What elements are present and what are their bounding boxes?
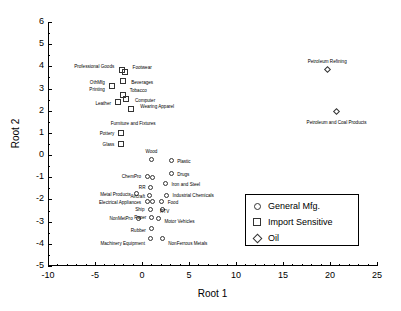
data-point-label: Iron and Steel (172, 183, 201, 188)
x-tick (245, 264, 246, 266)
data-point (109, 83, 115, 89)
data-point (149, 157, 154, 162)
x-tick-label: 5 (169, 270, 209, 280)
y-tick-label: 3 (20, 83, 44, 93)
y-tick (48, 211, 50, 212)
x-tick (227, 264, 228, 266)
y-tick-label: 4 (20, 60, 44, 70)
data-point (160, 236, 165, 241)
x-tick (311, 264, 312, 266)
x-tick (358, 264, 359, 266)
y-tick (48, 22, 52, 23)
data-point (149, 215, 154, 220)
x-axis-label: Root 1 (48, 288, 377, 299)
y-tick (48, 144, 50, 145)
legend-label: General Mfg. (268, 201, 320, 211)
x-tick (114, 264, 115, 266)
data-point-label: Wearing Apparel (140, 105, 174, 110)
data-point (148, 207, 153, 212)
x-tick-label: 20 (310, 270, 350, 280)
x-tick-label: -10 (28, 270, 68, 280)
x-tick-label: -5 (75, 270, 115, 280)
legend-item[interactable]: General Mfg. (246, 198, 358, 214)
data-point (128, 106, 134, 112)
y-tick-label: -3 (20, 216, 44, 226)
data-point-label: Electrical Appliances (99, 201, 141, 206)
data-point-label: Food (168, 201, 178, 206)
data-point-label: Footwear (133, 66, 152, 71)
y-tick-label: 0 (20, 149, 44, 159)
data-point-label: RTV (160, 210, 169, 215)
x-tick (264, 264, 265, 266)
x-tick (330, 262, 331, 266)
x-tick (368, 264, 369, 266)
legend-item[interactable]: Oil (246, 230, 358, 246)
data-point (148, 185, 153, 190)
x-tick (67, 264, 68, 266)
data-point (118, 141, 124, 147)
data-point-label: Plastic (177, 160, 191, 165)
x-tick (321, 264, 322, 266)
y-tick-label: 6 (20, 16, 44, 26)
legend-item[interactable]: Import Sensitive (246, 214, 358, 230)
y-tick-label: -4 (20, 238, 44, 248)
x-tick (76, 264, 77, 266)
data-point-label: Printing (89, 88, 105, 93)
x-tick (151, 264, 152, 266)
y-tick-label: 5 (20, 38, 44, 48)
y-tick (48, 111, 52, 112)
data-point-label: RR (139, 186, 146, 191)
y-tick-label: -2 (20, 193, 44, 203)
legend-label: Oil (268, 233, 279, 243)
data-point-label: Motor Vehicles (164, 220, 194, 225)
data-point-label: Petroleum Refining (308, 60, 347, 65)
data-point-label: Tobacco (130, 89, 147, 94)
x-tick (198, 264, 199, 266)
data-point-label: Furniture and Fixtures (111, 122, 156, 127)
x-tick (95, 262, 96, 266)
y-tick (48, 33, 50, 34)
circle-marker (246, 203, 268, 210)
data-point-label: NonFerrous Metals (168, 242, 207, 247)
data-point (120, 78, 126, 84)
data-point-label: Rubber (131, 229, 146, 234)
x-tick (133, 264, 134, 266)
data-point (156, 216, 161, 221)
data-point (118, 130, 124, 136)
data-point-label: Petroleum and Coal Products (307, 121, 367, 126)
y-tick (48, 199, 52, 200)
x-tick (217, 264, 218, 266)
data-point-label: Pottery (100, 132, 115, 137)
data-point-label: Industrial Chemicals (172, 194, 213, 199)
square-marker (246, 218, 268, 226)
data-point-label: Metal Products (100, 193, 131, 198)
data-point-label: Glass (103, 143, 115, 148)
x-tick (57, 264, 58, 266)
y-tick (48, 100, 50, 101)
x-tick (377, 262, 378, 266)
y-tick (48, 44, 52, 45)
x-tick (123, 264, 124, 266)
y-tick (48, 188, 50, 189)
data-point (115, 99, 121, 105)
y-tick-label: -1 (20, 171, 44, 181)
data-point-label: Beverages (131, 81, 153, 86)
y-tick-label: -5 (20, 260, 44, 270)
x-tick (142, 262, 143, 266)
chart-legend: General Mfg.Import SensitiveOil (245, 194, 359, 246)
x-tick (189, 262, 190, 266)
diamond-marker (246, 235, 268, 242)
y-tick (48, 166, 50, 167)
y-tick (48, 233, 50, 234)
x-tick (208, 264, 209, 266)
x-tick (161, 264, 162, 266)
y-tick (48, 133, 52, 134)
x-tick (236, 262, 237, 266)
y-tick (48, 244, 52, 245)
x-tick (339, 264, 340, 266)
y-axis-label: Root 2 (10, 94, 21, 174)
data-point (122, 69, 128, 75)
x-tick (283, 262, 284, 266)
data-point (164, 193, 169, 198)
data-point (145, 199, 150, 204)
